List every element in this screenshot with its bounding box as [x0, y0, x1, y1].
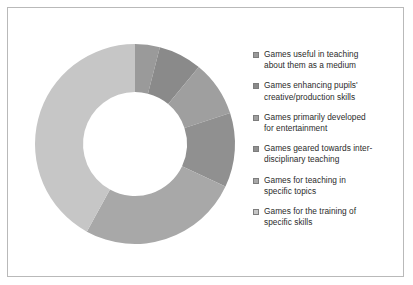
- legend-swatch-icon: [253, 115, 259, 121]
- chart-legend: Games useful in teaching about them as a…: [253, 49, 403, 237]
- legend-label-line: for entertainment: [264, 123, 327, 133]
- donut-slice-group: [35, 44, 235, 244]
- legend-swatch-icon: [253, 52, 259, 58]
- legend-label-line: Games geared towards inter-: [264, 143, 372, 153]
- legend-item[interactable]: Games enhancing pupils' creative/product…: [253, 80, 403, 102]
- legend-swatch-icon: [253, 146, 259, 152]
- legend-item[interactable]: Games for the training of specific skill…: [253, 206, 403, 228]
- legend-swatch-icon: [253, 178, 259, 184]
- legend-item-label: Games geared towards inter- disciplinary…: [264, 143, 403, 165]
- legend-swatch-icon: [253, 209, 259, 215]
- legend-item[interactable]: Games primarily developed for entertainm…: [253, 112, 403, 134]
- legend-label-line: creative/production skills: [264, 92, 355, 102]
- donut-chart: [18, 22, 244, 264]
- legend-item[interactable]: Games geared towards inter- disciplinary…: [253, 143, 403, 165]
- legend-item-label: Games enhancing pupils' creative/product…: [264, 80, 403, 102]
- legend-item-label: Games primarily developed for entertainm…: [264, 112, 403, 134]
- legend-item[interactable]: Games for teaching in specific topics: [253, 175, 403, 197]
- donut-slice[interactable]: [87, 166, 226, 244]
- legend-label-line: Games useful in teaching: [264, 49, 358, 59]
- legend-swatch-icon: [253, 83, 259, 89]
- legend-label-line: specific topics: [264, 186, 316, 196]
- legend-item[interactable]: Games useful in teaching about them as a…: [253, 49, 403, 71]
- legend-label-line: specific skills: [264, 217, 312, 227]
- legend-label-line: Games for the training of: [264, 206, 356, 216]
- screenshot-root: Games useful in teaching about them as a…: [0, 0, 413, 285]
- donut-chart-svg: [18, 22, 244, 264]
- legend-item-label: Games for teaching in specific topics: [264, 175, 403, 197]
- legend-label-line: disciplinary teaching: [264, 154, 339, 164]
- legend-label-line: Games enhancing pupils': [264, 80, 358, 90]
- legend-label-line: Games for teaching in: [264, 175, 346, 185]
- legend-item-label: Games useful in teaching about them as a…: [264, 49, 403, 71]
- legend-label-line: about them as a medium: [264, 60, 356, 70]
- legend-label-line: Games primarily developed: [264, 112, 366, 122]
- legend-item-label: Games for the training of specific skill…: [264, 206, 403, 228]
